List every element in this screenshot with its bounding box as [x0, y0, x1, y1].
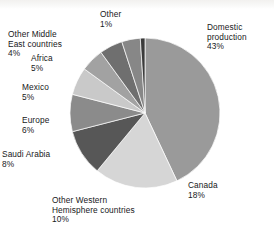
- pie-slice-group: [70, 38, 220, 188]
- slice-label-other: Other 1%: [100, 10, 144, 29]
- slice-label-mexico: Mexico 5%: [22, 83, 74, 102]
- slice-label-canada: Canada 18%: [188, 181, 240, 200]
- slice-label-europe: Europe 6%: [22, 116, 74, 135]
- slice-label-saudi-arabia: Saudi Arabia 8%: [2, 150, 78, 169]
- slice-label-domestic-production: Domestic production 43%: [207, 23, 271, 52]
- slice-label-other-western-hemisphere: Other Western Hemisphere countries 10%: [52, 196, 154, 225]
- pie-chart-figure: Domestic production 43% Canada 18% Other…: [0, 0, 274, 237]
- slice-label-other-middle-east: Other Middle East countries 4%: [8, 30, 86, 59]
